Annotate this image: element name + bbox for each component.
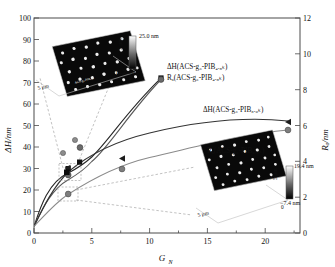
y-left-ticks xyxy=(34,18,39,233)
marker-rq48k-p2 xyxy=(77,145,83,151)
leader-bottom-right xyxy=(76,200,192,215)
y-tick-0: 0 xyxy=(27,229,31,238)
x-tick-15: 15 xyxy=(203,237,211,246)
series-label-dh-48k: ΔH(ACS-g₃-PIB₄.₈ₖ) xyxy=(167,63,228,71)
y-tick-90: 90 xyxy=(23,36,31,45)
curve-rq-48k xyxy=(34,80,161,227)
y2-tick-12: 12 xyxy=(303,14,311,23)
y-tick-100: 100 xyxy=(19,14,31,23)
y-tick-40: 40 xyxy=(23,143,31,152)
inset-top-scale-y: 5 μm xyxy=(117,38,123,50)
y-tick-70: 70 xyxy=(23,79,31,88)
series-label-rq-56k: Rₐ(ACS-g₃-PIB₅.₆ₖ) xyxy=(207,147,265,155)
y-left-axis-label: ΔH/nm xyxy=(3,127,13,154)
y-tick-50: 50 xyxy=(23,122,31,131)
x-tick-0: 0 xyxy=(32,237,36,246)
marker-dh48k-p2 xyxy=(77,160,82,165)
marker-cluster-c1 xyxy=(60,150,65,155)
marker-rq56k-p1 xyxy=(65,191,71,197)
inset-top-colorbar-min: −11.2 nm xyxy=(112,69,135,75)
inset-top-colorbar xyxy=(129,36,136,69)
inset-bottom-colorbar xyxy=(286,166,293,199)
marker-cluster-c2 xyxy=(72,137,77,142)
leader-top-left xyxy=(40,78,63,168)
series-label-rq-48k: Rₐ(ACS-g₃-PIB₄.₈ₖ) xyxy=(167,74,225,82)
figure-root: 0 10 20 30 40 50 60 70 80 90 100 ΔH/nm 0… xyxy=(0,0,335,267)
x-tick-labels: 0 5 10 15 20 xyxy=(32,237,269,246)
inset-top-colorbar-max: 25.0 nm xyxy=(139,33,159,39)
y2-tick-6: 6 xyxy=(303,122,307,131)
x-axis-label: G N xyxy=(159,253,174,265)
y2-tick-2: 2 xyxy=(303,193,307,202)
inset-top-origin: 0 xyxy=(129,75,132,81)
series-label-dh-56k: ΔH(ACS-g₃-PIB₅.₆ₖ) xyxy=(203,106,264,114)
inset-bottom-sample-label: ACS-g₃-PIB₅.₆ₖ xyxy=(231,202,252,212)
inset-bottom-image xyxy=(201,130,287,191)
x-axis-label-main: G xyxy=(159,253,166,263)
y-tick-80: 80 xyxy=(23,57,31,66)
marker-rq56k-p3 xyxy=(285,127,291,133)
x-ticks xyxy=(34,228,294,233)
y2-tick-0: 0 xyxy=(303,229,307,238)
y-right-axis-label: Rₐ/nm xyxy=(320,129,330,152)
y-left-tick-labels: 0 10 20 30 40 50 60 70 80 90 100 xyxy=(19,14,31,238)
inset-bottom-colorbar-min: −7.4 nm xyxy=(280,200,300,206)
marker-dh56k-p3 xyxy=(285,119,291,125)
x-tick-20: 20 xyxy=(261,237,269,246)
inset-top: 5 μm 5 μm 0 ACS-g₃-PIB₄.₈ₖ 25.0 nm −11.2… xyxy=(36,31,159,97)
inset-top-scale-x: 5 μm xyxy=(37,82,50,91)
inset-bottom-colorbar-max: 19.4 nm xyxy=(294,163,314,169)
y-right-tick-labels: 0 2 4 6 8 10 12 xyxy=(303,14,311,238)
leader-lines xyxy=(40,78,195,215)
inset-bottom: 5 μm 5 μm 0 ACS-g₃-PIB₅.₆ₖ 19.4 nm −7.4 … xyxy=(196,130,314,223)
x-axis-label-sub: N xyxy=(168,259,174,265)
y-tick-30: 30 xyxy=(23,165,31,174)
inset-bottom-scale-x: 5 μm xyxy=(197,209,210,218)
x-tick-5: 5 xyxy=(90,237,94,246)
y-tick-20: 20 xyxy=(23,186,31,195)
y-tick-60: 60 xyxy=(23,100,31,109)
y2-tick-10: 10 xyxy=(303,50,311,59)
marker-rq48k-p3 xyxy=(158,77,164,83)
marker-cluster-sq xyxy=(64,170,70,176)
marker-rq56k-p2 xyxy=(119,166,125,172)
leader-bottom-left xyxy=(76,167,195,190)
marker-dh56k-p2 xyxy=(119,155,125,161)
y2-tick-8: 8 xyxy=(303,86,307,95)
inset-bottom-scale-y: 5 μm xyxy=(272,168,278,180)
chart-svg: 0 10 20 30 40 50 60 70 80 90 100 ΔH/nm 0… xyxy=(0,0,335,267)
y-tick-10: 10 xyxy=(23,208,31,217)
x-tick-10: 10 xyxy=(146,237,154,246)
